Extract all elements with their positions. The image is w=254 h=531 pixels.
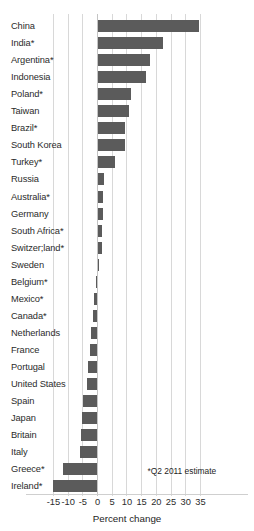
category-label: Argentina* bbox=[0, 51, 88, 69]
x-tick-label: -15 bbox=[47, 497, 60, 507]
category-label: Australia* bbox=[0, 188, 88, 206]
x-axis-ticks: -15-10-505101520253035 bbox=[0, 497, 254, 511]
bar bbox=[83, 395, 98, 407]
category-label: Poland* bbox=[0, 85, 88, 103]
category-label: Britain bbox=[0, 426, 88, 444]
bar-row: Japan bbox=[0, 409, 254, 427]
category-label: United States bbox=[0, 375, 88, 393]
bar-row: Brazil* bbox=[0, 119, 254, 137]
x-tick-label: 30 bbox=[181, 497, 191, 507]
bar-row: Sweden bbox=[0, 256, 254, 274]
category-label: Italy bbox=[0, 443, 88, 461]
bar bbox=[98, 191, 104, 203]
bar-row: Switzer;land* bbox=[0, 239, 254, 257]
bar bbox=[98, 259, 99, 271]
x-tick-label: 5 bbox=[110, 497, 115, 507]
category-label: Mexico* bbox=[0, 290, 88, 308]
bar bbox=[96, 276, 98, 288]
footnote-annotation: *Q2 2011 estimate bbox=[147, 466, 216, 476]
bar-row: Britain bbox=[0, 426, 254, 444]
bar bbox=[91, 327, 97, 339]
bar bbox=[98, 208, 103, 220]
category-label: South Korea bbox=[0, 136, 88, 154]
category-label: Turkey* bbox=[0, 153, 88, 171]
x-tick-label: 15 bbox=[136, 497, 146, 507]
axis-baseline bbox=[26, 494, 248, 495]
category-label: Belgium* bbox=[0, 273, 88, 291]
category-label: Germany bbox=[0, 205, 88, 223]
bar-row: Taiwan bbox=[0, 102, 254, 120]
category-label: India* bbox=[0, 34, 88, 52]
bar bbox=[87, 378, 97, 390]
bar bbox=[98, 173, 104, 185]
bar-row: India* bbox=[0, 34, 254, 52]
bar-row: Ireland* bbox=[0, 477, 254, 495]
bar-row: Argentina* bbox=[0, 51, 254, 69]
bar bbox=[98, 54, 150, 66]
bar bbox=[81, 429, 97, 441]
bar bbox=[98, 242, 102, 254]
x-tick-label: -10 bbox=[61, 497, 74, 507]
bar-row: Indonesia bbox=[0, 68, 254, 86]
category-label: Indonesia bbox=[0, 68, 88, 86]
bar-row: Italy bbox=[0, 443, 254, 461]
bar bbox=[98, 139, 125, 151]
category-label: Switzer;land* bbox=[0, 239, 88, 257]
bar bbox=[98, 122, 126, 134]
x-tick-label: 10 bbox=[122, 497, 132, 507]
bar bbox=[53, 480, 97, 492]
bar-row: Australia* bbox=[0, 188, 254, 206]
category-label: Russia bbox=[0, 170, 88, 188]
bar-chart: ChinaIndia*Argentina*IndonesiaPoland*Tai… bbox=[0, 0, 254, 531]
category-label: Brazil* bbox=[0, 119, 88, 137]
bar-row: France bbox=[0, 341, 254, 359]
bar-row: Poland* bbox=[0, 85, 254, 103]
x-tick-label: 0 bbox=[95, 497, 100, 507]
bar-row: Netherlands bbox=[0, 324, 254, 342]
bar bbox=[82, 412, 98, 424]
plot-area: ChinaIndia*Argentina*IndonesiaPoland*Tai… bbox=[0, 14, 254, 496]
bar bbox=[93, 310, 97, 322]
bar-row: Russia bbox=[0, 170, 254, 188]
bar bbox=[98, 37, 164, 49]
bar-row: Belgium* bbox=[0, 273, 254, 291]
bar bbox=[98, 225, 103, 237]
bar bbox=[98, 20, 199, 32]
bar bbox=[90, 344, 98, 356]
bar bbox=[98, 88, 132, 100]
category-label: France bbox=[0, 341, 88, 359]
category-label: Canada* bbox=[0, 307, 88, 325]
x-tick-label: 25 bbox=[166, 497, 176, 507]
bar bbox=[98, 71, 147, 83]
bar-row: South Korea bbox=[0, 136, 254, 154]
x-axis-title: Percent change bbox=[0, 513, 254, 524]
category-label: Netherlands bbox=[0, 324, 88, 342]
bar-row: Spain bbox=[0, 392, 254, 410]
category-label: Japan bbox=[0, 409, 88, 427]
bar-row: United States bbox=[0, 375, 254, 393]
bar-row: Germany bbox=[0, 205, 254, 223]
bar bbox=[98, 105, 129, 117]
bar bbox=[80, 446, 97, 458]
x-tick-label: 35 bbox=[195, 497, 205, 507]
category-label: South Africa* bbox=[0, 222, 88, 240]
x-tick-label: -5 bbox=[79, 497, 87, 507]
bar-row: China bbox=[0, 17, 254, 35]
bar-row: Turkey* bbox=[0, 153, 254, 171]
bar bbox=[63, 463, 98, 475]
bar-row: South Africa* bbox=[0, 222, 254, 240]
bar-row: Canada* bbox=[0, 307, 254, 325]
category-label: Spain bbox=[0, 392, 88, 410]
bar bbox=[94, 293, 97, 305]
bar bbox=[98, 156, 116, 168]
bar-row: Mexico* bbox=[0, 290, 254, 308]
category-label: Portugal bbox=[0, 358, 88, 376]
bar-row: Portugal bbox=[0, 358, 254, 376]
x-tick-label: 20 bbox=[151, 497, 161, 507]
category-label: China bbox=[0, 17, 88, 35]
category-label: Sweden bbox=[0, 256, 88, 274]
bar bbox=[88, 361, 98, 373]
category-label: Taiwan bbox=[0, 102, 88, 120]
